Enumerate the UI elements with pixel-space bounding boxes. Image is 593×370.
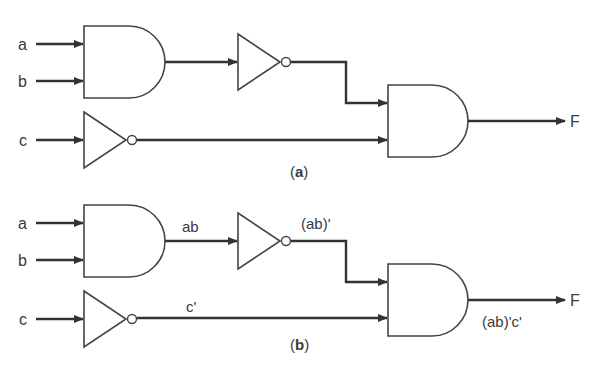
panel-a-caption: (a)	[290, 163, 308, 180]
not-gate-1	[238, 213, 280, 269]
output-f-label: F	[570, 292, 580, 309]
signal-label-ab-not: (ab)'	[301, 215, 331, 232]
input-c-label: c	[19, 311, 27, 328]
not-gate-1	[238, 34, 280, 90]
input-c-label: c	[19, 132, 27, 149]
input-a-label: a	[18, 215, 27, 232]
wire-not1-to-and2	[291, 241, 387, 282]
input-b-label: b	[18, 73, 27, 90]
and-gate-1	[84, 205, 165, 277]
inversion-bubble-1	[282, 58, 291, 67]
not-gate-c	[84, 291, 126, 347]
wire-not1-to-and2	[291, 62, 387, 103]
signal-label-ab: ab	[182, 218, 199, 235]
not-gate-c	[84, 112, 126, 168]
inversion-bubble-c	[128, 136, 137, 145]
and-gate-2	[388, 264, 468, 336]
inversion-bubble-c	[128, 315, 137, 324]
and-gate-1	[84, 26, 165, 98]
signal-label-c-not: c'	[186, 298, 197, 315]
logic-circuit-diagram: a b c F (a) a b c	[0, 0, 593, 370]
and-gate-2	[388, 85, 468, 157]
panel-b-caption: (b)	[290, 336, 309, 353]
panel-b: a b c ab (ab)' c' F (ab)'c' (b)	[18, 205, 580, 353]
input-a-label: a	[18, 36, 27, 53]
input-b-label: b	[18, 252, 27, 269]
signal-label-output-expr: (ab)'c'	[482, 313, 522, 330]
output-f-label: F	[570, 113, 580, 130]
panel-a: a b c F (a)	[18, 26, 580, 180]
inversion-bubble-1	[282, 237, 291, 246]
